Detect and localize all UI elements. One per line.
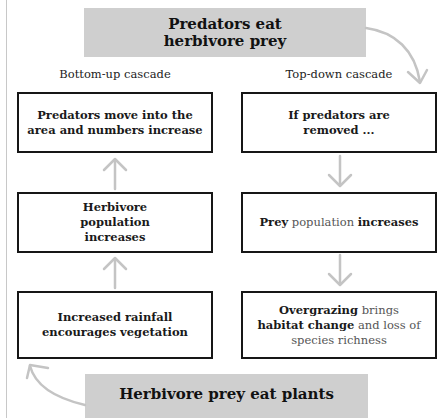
arrows-layer bbox=[0, 0, 444, 418]
curved-arrow-bottom-icon bbox=[27, 365, 85, 405]
arrow-down-icon bbox=[329, 156, 351, 186]
curved-arrow-top-icon bbox=[366, 28, 427, 83]
arrow-down-icon bbox=[329, 255, 351, 285]
arrow-up-icon bbox=[104, 159, 126, 189]
arrow-up-icon bbox=[104, 258, 126, 288]
